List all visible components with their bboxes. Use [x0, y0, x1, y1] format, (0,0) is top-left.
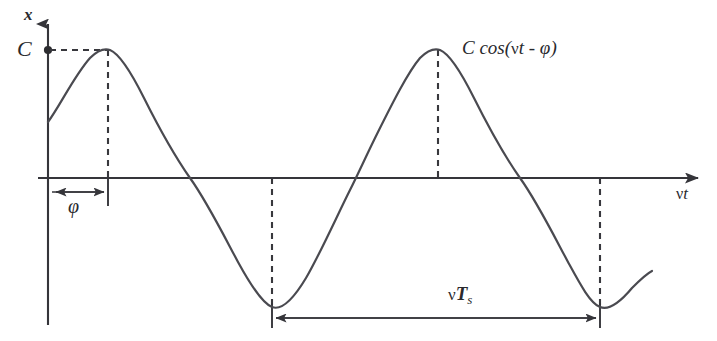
- period-label: νTs: [448, 284, 472, 306]
- equation-suffix: t - φ): [519, 37, 557, 58]
- equation-label: C cos(νt - φ): [462, 38, 557, 57]
- phase-shift-label: φ: [68, 196, 79, 216]
- vertical-axis-label: x: [24, 6, 33, 23]
- equation-prefix: C cos(: [462, 37, 511, 58]
- horizontal-axis-label: νt: [676, 185, 688, 202]
- period-nu-symbol: ν: [448, 285, 456, 304]
- period-subscript: s: [467, 292, 472, 307]
- period-main-symbol: T: [456, 283, 468, 304]
- amplitude-label: C: [17, 38, 32, 60]
- waveform-figure: x C φ C cos(νt - φ) νt νTs: [0, 0, 717, 341]
- waveform-svg: [0, 0, 717, 341]
- equation-nu-symbol: ν: [511, 39, 519, 58]
- horizontal-axis-t-symbol: t: [683, 184, 688, 203]
